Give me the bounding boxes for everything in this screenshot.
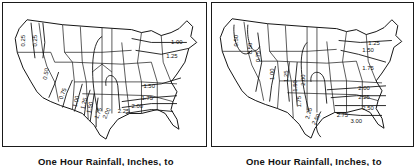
svg-text:1.75: 1.75 [362,65,374,71]
svg-text:2.00: 2.00 [132,103,144,109]
svg-text:2.00: 2.00 [358,85,370,91]
us-rainfall-map-right: 0.50 0.50 0.75 1.00 1.25 1.50 2.00 1.75 … [212,3,413,146]
svg-text:1.00: 1.00 [269,68,275,80]
svg-text:1.25: 1.25 [368,40,380,46]
caption-right: One Hour Rainfall, Inches, to [246,156,382,166]
map-panel-left: 0.25 0.25 0.50 0.75 1.00 1.25 1.50 1.75 … [2,2,207,147]
svg-text:2.00: 2.00 [300,74,306,86]
map-panel-right: 0.50 0.50 0.75 1.00 1.25 1.50 2.00 1.75 … [211,2,414,147]
caption-left: One Hour Rainfall, Inches, to [38,156,174,166]
svg-text:2.25: 2.25 [304,106,313,119]
svg-text:2.25: 2.25 [358,94,370,100]
svg-text:1.25: 1.25 [166,53,178,59]
svg-text:0.75: 0.75 [58,86,68,100]
svg-text:1.50: 1.50 [143,83,155,89]
svg-text:1.50: 1.50 [362,47,374,53]
svg-text:2.75: 2.75 [337,112,349,118]
svg-text:1.25: 1.25 [283,70,289,82]
svg-text:1.75: 1.75 [141,95,153,101]
svg-text:0.50: 0.50 [42,67,50,80]
svg-text:1.50: 1.50 [292,80,298,92]
svg-text:0.25: 0.25 [20,34,26,46]
svg-text:0.50: 0.50 [233,34,239,46]
svg-text:0.25: 0.25 [32,34,38,46]
svg-text:2.50: 2.50 [362,105,374,111]
svg-text:3.00: 3.00 [350,118,362,124]
us-rainfall-map-left: 0.25 0.25 0.50 0.75 1.00 1.25 1.50 1.75 … [3,3,206,146]
svg-text:1.00: 1.00 [171,39,183,45]
svg-text:0.50: 0.50 [247,42,253,54]
svg-text:2.25: 2.25 [118,108,130,114]
svg-text:2.00: 2.00 [101,106,112,120]
svg-text:1.75: 1.75 [296,95,302,107]
svg-text:2.50: 2.50 [311,112,322,126]
svg-text:0.75: 0.75 [255,50,261,62]
